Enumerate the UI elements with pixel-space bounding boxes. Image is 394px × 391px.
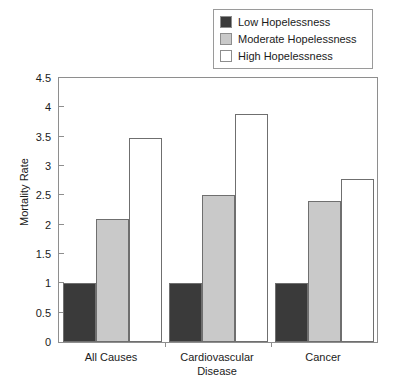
legend-swatch-icon-low [220,16,232,28]
y-axis-tick-label: 2.5 [25,189,59,201]
legend-item-moderate-hopelessness: Moderate Hopelessness [220,31,366,47]
bar-2-2 [341,179,374,342]
y-axis-tick-mark [59,136,64,137]
legend-item-high-hopelessness: High Hopelessness [220,48,366,64]
legend-label-low: Low Hopelessness [238,16,330,28]
y-axis-tick-label: 0.5 [25,307,59,319]
legend-swatch-icon-moderate [220,33,232,45]
x-axis-group-separator [165,342,166,347]
y-axis-tick-mark [59,253,64,254]
x-axis-category-line: Cancer [263,350,383,364]
y-axis-tick-value: 4 [45,101,59,113]
x-axis-category-line: All Causes [51,350,171,364]
bar-0-0 [63,283,96,342]
y-axis-tick-label: 4 [25,101,59,113]
x-axis-category-label: Cancer [263,350,383,364]
y-axis-tick-value: 2.5 [36,189,59,201]
legend-label-high: High Hopelessness [238,50,333,62]
y-axis-tick-label: 1 [25,277,59,289]
plot-area: 00.511.522.533.544.5 [58,77,378,343]
y-axis-tick-label: 4.5 [25,72,59,84]
y-axis-tick-label: 1.5 [25,248,59,260]
x-axis-category-label: CardiovascularDisease [157,350,277,378]
bar-2-1 [308,201,341,342]
bar-0-1 [96,219,129,342]
legend-item-low-hopelessness: Low Hopelessness [220,14,366,30]
bar-0-2 [129,138,162,342]
y-axis-tick-value: 3 [45,160,59,172]
y-axis-tick-value: 0 [45,336,59,348]
bar-1-1 [202,195,235,342]
x-axis-group-separator [271,342,272,347]
bar-2-0 [275,283,308,342]
y-axis-tick-mark [59,106,64,107]
y-axis-tick-value: 3.5 [36,131,59,143]
y-axis-tick-value: 2 [45,219,59,231]
y-axis-tick-mark [59,194,64,195]
y-axis-tick-value: 4.5 [36,72,59,84]
y-axis-tick-value: 0.5 [36,307,59,319]
legend-label-moderate: Moderate Hopelessness [238,33,357,45]
y-axis-tick-label: 3 [25,160,59,172]
y-axis-tick-mark [59,224,64,225]
y-axis-tick-label: 2 [25,219,59,231]
chart-legend: Low Hopelessness Moderate Hopelessness H… [213,9,373,69]
y-axis-tick-mark [59,77,64,78]
y-axis-tick-value: 1 [45,277,59,289]
legend-swatch-icon-high [220,50,232,62]
y-axis-tick-value: 1.5 [36,248,59,260]
x-axis-category-line: Disease [157,364,277,378]
bar-1-2 [235,114,268,342]
x-axis-category-line: Cardiovascular [157,350,277,364]
bar-1-0 [169,283,202,342]
y-axis-tick-mark [59,165,64,166]
plot-inner: 00.511.522.533.544.5 [59,78,377,342]
bar-chart-figure: Low Hopelessness Moderate Hopelessness H… [0,0,394,391]
y-axis-tick-label: 3.5 [25,131,59,143]
y-axis-tick-label: 0 [25,336,59,348]
x-axis-category-label: All Causes [51,350,171,364]
